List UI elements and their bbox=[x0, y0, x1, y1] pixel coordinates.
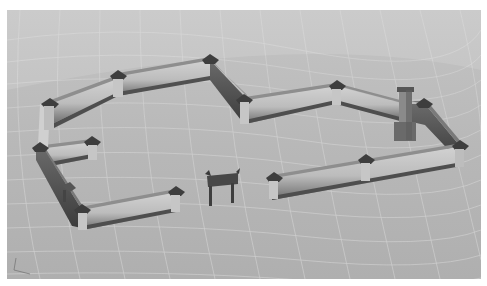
scene-render bbox=[7, 10, 481, 279]
render-viewport bbox=[7, 10, 481, 279]
